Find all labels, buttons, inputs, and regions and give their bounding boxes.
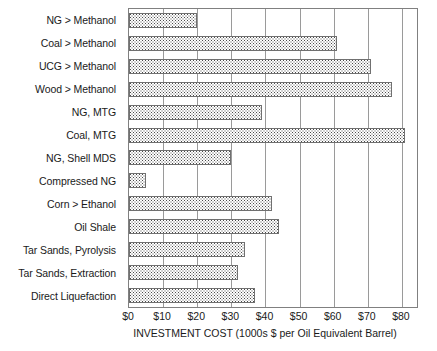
category-label: NG, Shell MDS (0, 146, 122, 169)
bar-slot (129, 192, 417, 215)
x-tick-label: $50 (290, 310, 308, 322)
investment-cost-bar-chart: NG > MethanolCoal > MethanolUCG > Methan… (0, 0, 437, 351)
bar (129, 196, 272, 211)
bar-slot (129, 215, 417, 238)
bar (129, 36, 337, 51)
category-axis-labels: NG > MethanolCoal > MethanolUCG > Methan… (0, 8, 122, 308)
category-label: Oil Shale (0, 216, 122, 239)
bar (129, 13, 197, 28)
category-label: Tar Sands, Pyrolysis (0, 239, 122, 262)
bar (129, 288, 255, 303)
x-tick-label: $40 (256, 310, 274, 322)
category-label: Direct Liquefaction (0, 285, 122, 308)
bar-slot (129, 101, 417, 124)
x-tick-label: $80 (392, 310, 410, 322)
x-tick-label: $0 (122, 310, 134, 322)
bar (129, 219, 279, 234)
category-label: Coal > Methanol (0, 31, 122, 54)
bar-slot (129, 284, 417, 307)
bar-slot (129, 55, 417, 78)
bar (129, 105, 262, 120)
bar-slot (129, 32, 417, 55)
x-axis-title: INVESTMENT COST (1000s $ per Oil Equival… (100, 327, 430, 339)
x-tick-label: $70 (358, 310, 376, 322)
bar (129, 150, 231, 165)
category-label: UCG > Methanol (0, 54, 122, 77)
bar (129, 242, 245, 257)
x-tick-label: $60 (324, 310, 342, 322)
x-tick-label: $10 (153, 310, 171, 322)
x-axis-tick-labels: $0$10$20$30$40$50$60$70$80 (128, 310, 418, 325)
bar-slot (129, 124, 417, 147)
category-label: Tar Sands, Extraction (0, 262, 122, 285)
bar-slot (129, 147, 417, 170)
bar (129, 59, 371, 74)
bar-slot (129, 261, 417, 284)
bar (129, 265, 238, 280)
category-label: NG, MTG (0, 100, 122, 123)
category-label: Compressed NG (0, 170, 122, 193)
bar (129, 82, 392, 97)
x-tick-label: $30 (222, 310, 240, 322)
category-label: Coal, MTG (0, 123, 122, 146)
x-tick-label: $20 (187, 310, 205, 322)
category-label: Wood > Methanol (0, 77, 122, 100)
category-label: Corn > Ethanol (0, 193, 122, 216)
bar-slot (129, 169, 417, 192)
bar-slot (129, 9, 417, 32)
plot-area (128, 8, 418, 308)
bar-slot (129, 78, 417, 101)
bars-layer (129, 9, 417, 307)
category-label: NG > Methanol (0, 8, 122, 31)
bar (129, 173, 146, 188)
bar-slot (129, 238, 417, 261)
bar (129, 128, 405, 143)
